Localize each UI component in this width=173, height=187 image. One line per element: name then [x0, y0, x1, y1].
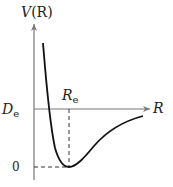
dissociation-label: De — [1, 101, 19, 119]
equilibrium-label: Re — [61, 87, 79, 105]
y-axis-label: V(R) — [21, 4, 53, 20]
potential-energy-diagram: V(R) R Re De 0 — [0, 0, 173, 187]
zero-label: 0 — [12, 160, 20, 174]
x-axis-label: R — [152, 100, 164, 116]
potential-curve — [43, 43, 143, 167]
